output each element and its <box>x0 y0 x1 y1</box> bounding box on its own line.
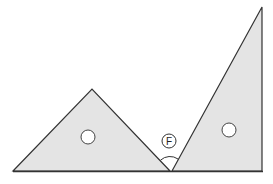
angle-f-arc <box>161 156 179 160</box>
angle-label-f: F <box>166 136 172 147</box>
left-triangle <box>13 89 170 171</box>
right-triangle <box>172 7 262 171</box>
right-triangle-hole <box>222 123 236 137</box>
geometry-diagram: F <box>0 0 273 184</box>
left-triangle-hole <box>81 130 95 144</box>
